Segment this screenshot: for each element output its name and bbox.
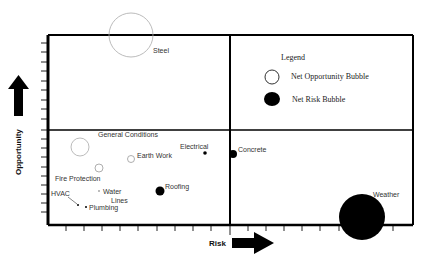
bubble-earth-work [128,156,135,163]
bubble-general-conditions [71,138,89,156]
opportunity-arrow-icon [8,75,29,116]
bubble-weather [339,194,385,240]
bubble-fire-protection [95,164,103,172]
legend-title: Legend [281,53,305,62]
y-axis-label: Opportunity [14,129,23,175]
legend-risk-icon [264,92,280,106]
bubble-water-lines [98,190,100,192]
risk-arrow-icon [232,232,274,254]
risk-opportunity-chart: Opportunity Risk Legend Net Opportunity … [0,0,423,260]
bubble-plumbing [85,206,87,208]
label-general-conditions: General Conditions [98,131,158,138]
legend: Legend Net Opportunity Bubble Net Risk B… [264,53,369,106]
bubble-roofing [156,187,165,196]
label-steel: Steel [153,47,169,54]
label-hvac: HVAC [51,190,70,197]
label-weather: Weather [373,191,400,198]
x-axis-label: Risk [209,239,226,248]
bubble-electrical [203,151,207,155]
label-fire-protection: Fire Protection [55,175,101,182]
bubble-hvac [77,204,79,206]
label-roofing: Roofing [165,183,189,191]
label-lines: Lines [111,197,128,204]
label-concrete: Concrete [238,146,267,153]
label-earth-work: Earth Work [137,152,172,159]
legend-opportunity-icon [265,70,279,84]
legend-opportunity-label: Net Opportunity Bubble [291,72,369,81]
label-electrical: Electrical [180,143,209,150]
bubble-concrete [229,150,237,158]
label-water: Water [103,188,122,195]
hvac-leader-line [68,197,77,204]
label-plumbing: Plumbing [89,204,118,212]
legend-risk-label: Net Risk Bubble [292,95,346,104]
